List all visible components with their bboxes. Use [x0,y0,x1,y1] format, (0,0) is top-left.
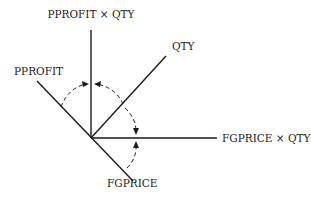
arrowhead-qty-to-horizontal [133,128,139,135]
label-fgprice: FGPRICE [107,177,158,189]
diagram-canvas: PPROFIT × QTY QTY FGPRICE × QTY PPROFIT … [0,0,311,210]
arc-qty-to-vertical [97,84,123,104]
arrowhead-fgprice-to-horizontal [133,141,139,148]
label-pprofit-x-qty: PPROFIT × QTY [47,8,135,20]
arrowhead-pprofit-to-vertical [82,81,89,87]
arrowhead-qty-to-vertical [94,81,101,87]
label-fgprice-x-qty: FGPRICE × QTY [222,132,311,144]
axis-qty [91,56,166,138]
label-qty: QTY [172,40,196,52]
label-pprofit: PPROFIT [14,65,63,77]
rotation-diagram: PPROFIT × QTY QTY FGPRICE × QTY PPROFIT … [0,0,311,210]
arc-pprofit-to-vertical [61,84,86,107]
